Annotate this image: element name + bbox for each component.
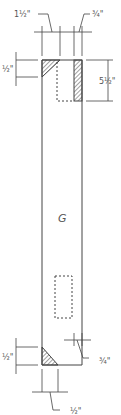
bottom-width-label: ½" <box>70 407 81 415</box>
bottom-width-dimension <box>32 369 68 410</box>
top-dashed-pocket <box>57 62 74 101</box>
top-left-width-label: 1½" <box>14 10 31 19</box>
top-right-height-label: 5½" <box>99 77 116 86</box>
bottom-right-width-label: ¾" <box>99 357 110 366</box>
panel-label: G <box>58 212 67 225</box>
bottom-left-height-dimension <box>16 338 38 374</box>
top-right-hatch <box>74 60 82 101</box>
top-left-height-dimension <box>16 52 38 86</box>
bottom-right-width-dimension <box>64 333 91 358</box>
top-right-width-label: ¾" <box>92 10 103 19</box>
bottom-left-height-label: ½" <box>2 353 13 362</box>
lower-dashed-pocket <box>55 276 72 318</box>
bottom-left-hatch <box>42 347 58 365</box>
top-left-height-label: ½" <box>2 65 13 74</box>
top-width-dimension <box>34 14 92 56</box>
technical-drawing: 1½" ¾" ½" 5½" G ¾" ½" ½" <box>0 0 121 415</box>
